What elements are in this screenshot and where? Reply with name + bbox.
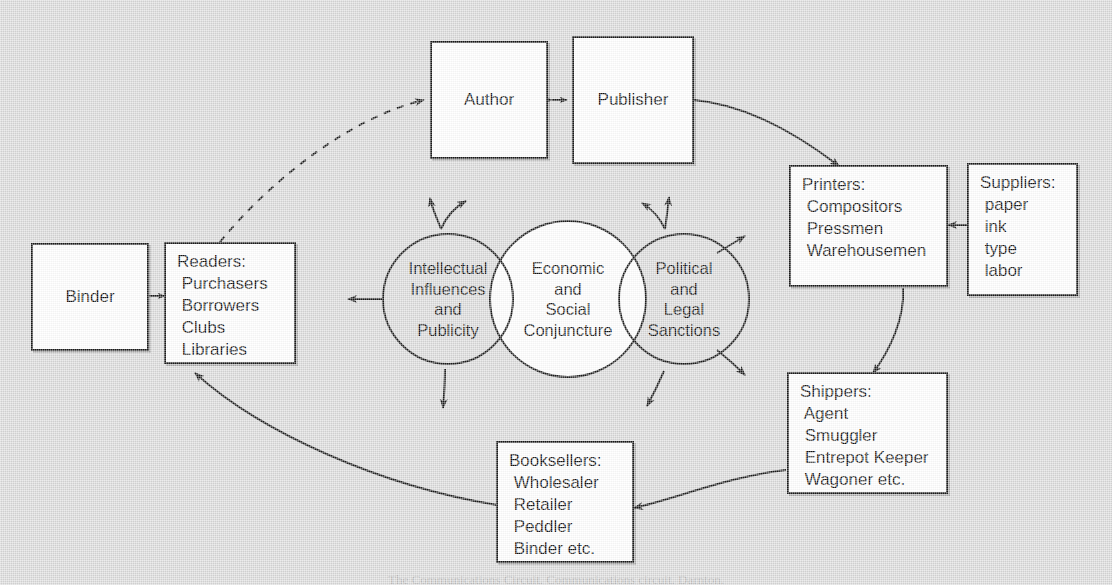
- node-readers-label: Readers: Purchasers Borrowers Clubs Libr…: [166, 244, 294, 361]
- edge-readers-author: [220, 100, 424, 242]
- edge-publisher-printers: [694, 100, 839, 166]
- node-suppliers-label: Suppliers: paper ink type labor: [969, 165, 1076, 282]
- node-author-label: Author: [464, 89, 514, 111]
- node-readers[interactable]: Readers: Purchasers Borrowers Clubs Libr…: [164, 242, 296, 364]
- node-printers-label: Printers: Compositors Pressmen Warehouse…: [791, 167, 946, 262]
- node-author[interactable]: Author: [430, 41, 548, 159]
- node-shippers-label: Shippers: Agent Smuggler Entrepot Keeper…: [789, 374, 946, 491]
- arrow-right-circle-up-left: [642, 203, 665, 229]
- diagram-canvas: Intellectual Influences and Publicity Ec…: [0, 0, 1112, 585]
- node-booksellers-label: Booksellers: Wholesaler Retailer Peddler…: [498, 443, 632, 560]
- edge-booksellers-readers: [195, 373, 497, 505]
- arrow-left-circle-down: [443, 369, 445, 408]
- arrow-right-circle-up-right: [665, 197, 669, 229]
- arrow-right-circle-down: [647, 371, 664, 406]
- node-shippers[interactable]: Shippers: Agent Smuggler Entrepot Keeper…: [787, 372, 948, 494]
- arrow-left-circle-up-right: [441, 201, 466, 229]
- node-booksellers[interactable]: Booksellers: Wholesaler Retailer Peddler…: [496, 441, 634, 563]
- figure-caption: The Communications Circuit. Communicatio…: [0, 572, 1112, 585]
- edge-shippers-booksellers: [634, 470, 786, 508]
- node-suppliers[interactable]: Suppliers: paper ink type labor: [967, 163, 1078, 296]
- arrow-left-circle-up-left: [430, 198, 441, 229]
- edge-printers-shippers: [873, 288, 903, 373]
- node-binder-label: Binder: [65, 286, 114, 308]
- node-printers[interactable]: Printers: Compositors Pressmen Warehouse…: [789, 165, 948, 287]
- node-publisher[interactable]: Publisher: [572, 36, 694, 164]
- node-publisher-label: Publisher: [598, 89, 669, 111]
- node-binder[interactable]: Binder: [31, 243, 149, 351]
- arrow-right-circle-down-right: [717, 350, 745, 375]
